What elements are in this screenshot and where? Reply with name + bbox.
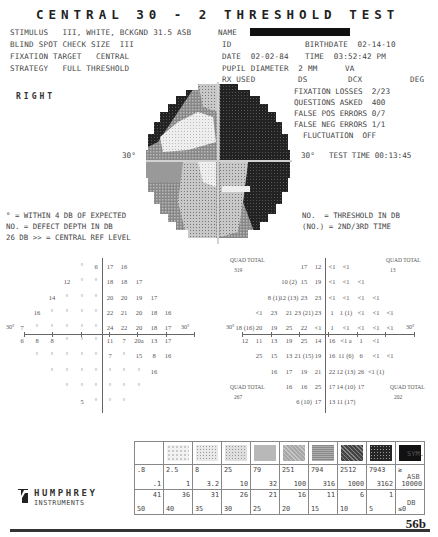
axis-tick — [242, 332, 243, 337]
asb-lower: 3.2 — [207, 480, 219, 488]
legend-defect-depth: NO. = DEFECT DEPTH IN DB — [6, 222, 113, 231]
defect-depth-cell: 17 — [151, 294, 158, 301]
threshold-cell: 12 (13) — [280, 294, 299, 301]
quad-total-value: 13 — [390, 267, 396, 273]
legend-swatch — [338, 442, 367, 465]
threshold-cell: 16 — [286, 383, 293, 390]
asb-upper: 79 — [253, 466, 261, 474]
defect-depth-cell: ° — [66, 368, 68, 374]
defect-depth-cell: 19 — [136, 294, 143, 301]
threshold-cell: <1 — [343, 263, 350, 270]
defect-depth-cell: 20 — [107, 294, 114, 301]
threshold-cell: <1 — [373, 324, 380, 331]
bottom-rule — [10, 529, 430, 532]
axis-tick — [357, 332, 358, 337]
threshold-cell: 22 — [329, 368, 336, 375]
defect-depth-cell: ° — [109, 368, 111, 374]
defect-depth-cell: 14 — [49, 294, 56, 301]
legend-swatch — [222, 442, 251, 465]
defect-depth-cell: ° — [51, 368, 53, 374]
va-label: VA — [345, 64, 355, 73]
asb-lower: 100 — [294, 480, 306, 488]
threshold-cell: <1 — [373, 337, 380, 344]
defect-depth-cell: ° — [36, 324, 38, 330]
threshold-cell: <1 — [329, 278, 336, 285]
defect-depth-cell: ° — [81, 263, 83, 269]
threshold-cell: <1 — [256, 309, 263, 316]
test-title: CENTRAL 30 - 2 THRESHOLD TEST — [36, 7, 399, 22]
legend-swatch-fill — [254, 445, 276, 461]
defect-grid-right-deg: 30° — [181, 324, 189, 330]
asb-lower: 1 — [186, 480, 190, 488]
db-lower: 50 — [137, 505, 145, 513]
legend-db-cell: 1115 — [309, 490, 338, 515]
defect-depth-cell: 7 — [108, 352, 111, 359]
threshold-cell: 17 — [301, 263, 308, 270]
defect-depth-cell: 16 — [165, 352, 172, 359]
grayscale-field-map — [138, 82, 298, 244]
blind-spot-info: BLIND SPOT CHECK SIZE III — [10, 40, 134, 49]
legend-swatch-fill — [167, 445, 189, 461]
humphrey-logo-icon — [18, 489, 28, 503]
threshold-cell: <1 — [329, 263, 336, 270]
defect-depth-cell: ° — [51, 324, 53, 330]
legend-db-cell: 3135 — [193, 490, 222, 515]
threshold-cell: 23 — [271, 309, 278, 316]
threshold-cell: 23 — [301, 294, 308, 301]
legend-asb-cell: 2510 — [222, 465, 251, 490]
threshold-cell: 15 — [301, 278, 308, 285]
asb-lower: 3162 — [377, 480, 393, 488]
db-lower: 35 — [195, 505, 203, 513]
id-label: ID — [222, 40, 232, 49]
threshold-cell: 21 — [286, 309, 293, 316]
defect-depth-cell: 7 — [20, 324, 23, 331]
defect-depth-cell: 24 — [107, 324, 114, 331]
asb-upper: 794 — [311, 466, 323, 474]
defect-depth-cell: ° — [81, 278, 83, 284]
asb-lower: 10000 — [402, 480, 422, 488]
axis-tick — [385, 332, 386, 337]
strategy-info: STRATEGY FULL THRESHOLD — [10, 64, 129, 73]
axis-tick — [328, 332, 329, 337]
legend-swatch-fill — [341, 445, 363, 461]
defect-depth-cell: ° — [95, 398, 97, 404]
threshold-grid-v-axis — [325, 258, 326, 413]
threshold-cell: 12 — [315, 263, 322, 270]
db-upper: 6 — [360, 491, 364, 499]
threshold-cell: 19 — [286, 337, 293, 344]
defect-depth-cell: 16 — [121, 263, 128, 270]
threshold-cell: 22 — [301, 324, 308, 331]
legend-asb-cell: 7932 — [251, 465, 280, 490]
threshold-cell: <1 — [358, 309, 365, 316]
threshold-cell: <1 — [358, 278, 365, 285]
legend-swatch-fill — [196, 445, 218, 461]
threshold-cell: 8 (1) — [268, 294, 280, 301]
legend-swatch — [251, 442, 280, 465]
threshold-cell: <1 — [387, 309, 394, 316]
defect-depth-cell: ° — [95, 294, 97, 300]
threshold-cell: 21 — [315, 368, 322, 375]
defect-depth-cell: ° — [95, 383, 97, 389]
quad-total-label: QUAD TOTAL — [230, 384, 265, 390]
legend-db-cell: 15 — [367, 490, 396, 515]
defect-grid-left-deg: 30° — [6, 324, 14, 330]
defect-depth-cell: 17 — [107, 263, 114, 270]
defect-depth-cell: 18 — [151, 324, 158, 331]
threshold-cell: 11 (17) — [337, 398, 356, 405]
legend-swatch-fill — [312, 445, 334, 461]
fixation-target-info: FIXATION TARGET CENTRAL — [10, 52, 129, 61]
asb-lower: 316 — [323, 480, 335, 488]
threshold-cell: 12 — [242, 337, 249, 344]
defect-depth-cell: 16 — [151, 368, 158, 375]
defect-depth-cell: ° — [95, 309, 97, 315]
threshold-cell: <1 — [343, 278, 350, 285]
defect-depth-cell: ° — [81, 294, 83, 300]
defect-depth-cell: ° — [66, 324, 68, 330]
defect-depth-cell: 21 — [121, 309, 128, 316]
asb-lower: .1 — [153, 480, 161, 488]
map-axis-left-label: 30° — [122, 151, 136, 160]
defect-depth-cell: 20 — [136, 309, 143, 316]
threshold-cell: 16 — [329, 337, 336, 344]
defect-depth-cell: 8 — [35, 337, 38, 344]
db-upper: 41 — [153, 491, 161, 499]
